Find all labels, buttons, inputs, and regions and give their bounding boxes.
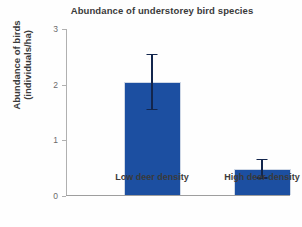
y-tick-mark — [62, 29, 66, 30]
chart-figure: Abundance of understorey bird species Ab… — [0, 0, 302, 227]
y-axis-line — [66, 29, 67, 196]
x-axis-label: High deer density — [224, 172, 300, 182]
y-tick-mark — [62, 196, 66, 197]
y-tick-label: 3 — [36, 24, 58, 34]
error-bar-cap — [256, 159, 267, 161]
y-tick-label: 2 — [36, 80, 58, 90]
chart-title: Abundance of understorey bird species — [0, 5, 302, 16]
error-bar-cap — [146, 54, 157, 56]
y-tick-label: 1 — [36, 135, 58, 145]
x-axis-line — [66, 195, 290, 196]
plot-area: 0123 — [66, 29, 290, 196]
y-axis-title: Abundance of birds (individuals/ha) — [9, 0, 35, 145]
y-tick-mark — [62, 140, 66, 141]
error-bar-cap — [146, 109, 157, 111]
error-bar — [151, 54, 153, 111]
x-axis-label: Low deer density — [115, 172, 189, 182]
y-tick-label: 0 — [36, 191, 58, 201]
y-axis-title-line2: (individuals/ha) — [22, 30, 33, 100]
y-axis-title-line1: Abundance of birds — [11, 20, 22, 109]
y-tick-mark — [62, 85, 66, 86]
